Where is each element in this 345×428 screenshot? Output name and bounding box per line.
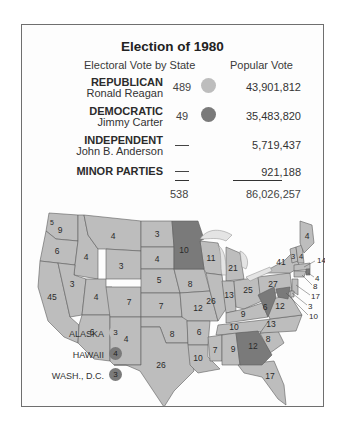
- svg-text:12: 12: [275, 301, 285, 311]
- svg-text:6: 6: [55, 246, 60, 256]
- svg-text:9: 9: [231, 344, 236, 354]
- legend-value-dot: 4: [109, 347, 122, 360]
- svg-text:27: 27: [268, 279, 278, 289]
- svg-text:17: 17: [311, 292, 320, 301]
- svg-text:45: 45: [47, 292, 57, 302]
- svg-text:5: 5: [157, 275, 162, 285]
- legend-dc: WASH., D.C. 3: [22, 368, 128, 384]
- legend-value-dot: 3: [109, 368, 122, 381]
- svg-text:13: 13: [224, 290, 234, 300]
- svg-text:7: 7: [213, 345, 218, 355]
- svg-text:10: 10: [309, 312, 318, 321]
- lake-superior: [200, 230, 232, 241]
- svg-text:12: 12: [193, 303, 203, 313]
- state-wy: [106, 249, 141, 279]
- state-co: [106, 287, 141, 317]
- svg-text:41: 41: [276, 257, 286, 267]
- svg-text:4: 4: [305, 231, 310, 241]
- svg-text:10: 10: [179, 245, 189, 255]
- svg-text:8: 8: [170, 329, 175, 339]
- svg-text:11: 11: [207, 253, 216, 263]
- svg-text:3: 3: [291, 252, 295, 261]
- svg-text:8: 8: [266, 334, 271, 344]
- legend-value-dot: 3: [109, 326, 122, 339]
- svg-text:4: 4: [111, 231, 116, 241]
- state-md: [276, 287, 290, 299]
- svg-text:14: 14: [317, 256, 325, 265]
- callout-ct: [302, 275, 312, 285]
- svg-text:13: 13: [266, 319, 276, 329]
- state-fl: [238, 361, 286, 405]
- svg-text:12: 12: [248, 341, 258, 351]
- svg-text:7: 7: [159, 301, 164, 311]
- svg-text:6: 6: [263, 302, 268, 312]
- svg-text:3: 3: [119, 261, 124, 271]
- svg-text:9: 9: [58, 225, 63, 235]
- svg-text:26: 26: [156, 360, 166, 370]
- svg-text:10: 10: [229, 322, 239, 332]
- svg-text:3: 3: [155, 229, 160, 239]
- svg-text:6: 6: [197, 327, 202, 337]
- svg-text:25: 25: [243, 285, 253, 295]
- svg-text:4: 4: [84, 252, 89, 262]
- svg-text:17: 17: [265, 371, 275, 381]
- legend-hawaii: HAWAII 4: [22, 347, 128, 363]
- svg-text:4: 4: [94, 292, 99, 302]
- svg-text:8: 8: [313, 282, 318, 291]
- election-panel: Election of 1980 Electoral Vote by State…: [21, 24, 324, 407]
- state-ct: [294, 271, 306, 277]
- legend-label: HAWAII: [73, 350, 104, 360]
- svg-text:4: 4: [299, 252, 303, 261]
- svg-text:8: 8: [188, 279, 193, 289]
- svg-text:26: 26: [206, 296, 216, 306]
- svg-text:5: 5: [50, 219, 54, 226]
- svg-text:10: 10: [193, 353, 203, 363]
- svg-text:3: 3: [308, 302, 313, 311]
- legend-label: ALASKA: [69, 329, 104, 339]
- svg-text:9: 9: [241, 309, 246, 319]
- svg-text:7: 7: [127, 297, 132, 307]
- legend-label: WASH., D.C.: [52, 371, 104, 381]
- svg-text:21: 21: [228, 263, 238, 273]
- svg-text:4: 4: [155, 254, 160, 264]
- legend-alaska: ALASKA 3: [22, 326, 128, 342]
- svg-text:3: 3: [70, 279, 75, 289]
